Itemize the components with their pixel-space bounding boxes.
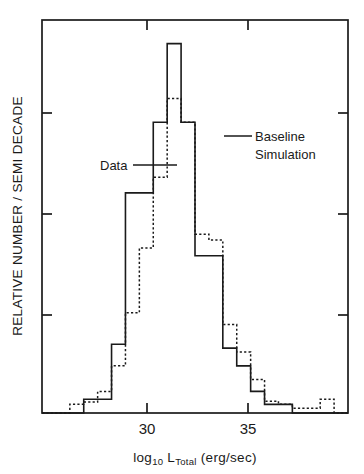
figure-page: RELATIVE NUMBER / SEMI DECADE 30 35	[0, 0, 364, 474]
x-axis-title-lum: L	[167, 450, 175, 465]
x-axis-title: log10 LTotal (erg/sec)	[133, 450, 257, 467]
x-axis-title-units: (erg/sec)	[201, 450, 257, 465]
y-axis-title: RELATIVE NUMBER / SEMI DECADE	[10, 96, 25, 336]
x-tick-labels: 30 35	[139, 420, 257, 437]
x-axis-title-log-sub: 10	[152, 456, 163, 467]
baseline-simulation-label-line1: Baseline	[255, 129, 305, 144]
x-tick-label-35: 35	[240, 420, 257, 437]
histogram-traces	[42, 44, 348, 413]
annotation-data: Data	[100, 158, 177, 173]
histogram-figure: RELATIVE NUMBER / SEMI DECADE 30 35	[0, 0, 364, 474]
x-axis-ticks	[147, 20, 248, 413]
x-tick-label-30: 30	[139, 420, 156, 437]
baseline-simulation-label-line2: Simulation	[255, 147, 316, 162]
y-axis-title-group: RELATIVE NUMBER / SEMI DECADE	[10, 96, 25, 336]
x-axis-title-log: log	[133, 450, 152, 465]
x-axis-title-lum-sub: Total	[175, 456, 197, 467]
data-annotation-label: Data	[100, 158, 128, 173]
x-axis-title-group: log10 LTotal (erg/sec)	[133, 450, 257, 467]
data-histogram	[42, 44, 348, 413]
annotation-baseline-simulation: Baseline Simulation	[224, 129, 316, 162]
